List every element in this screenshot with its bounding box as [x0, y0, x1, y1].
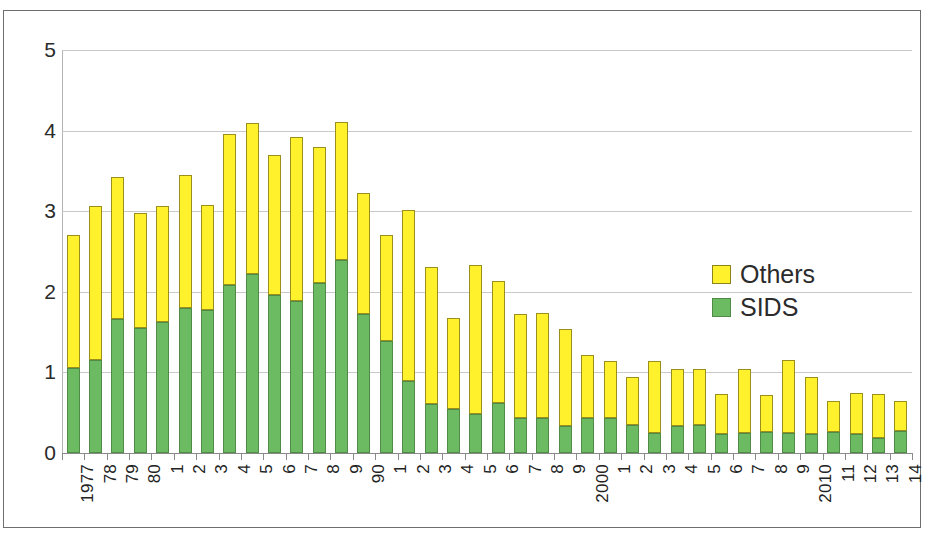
bar-4[interactable]	[671, 50, 684, 453]
bar-90[interactable]	[357, 50, 370, 453]
bar-segment-sids	[179, 308, 192, 453]
bar-segment-sids	[223, 285, 236, 453]
bar-13[interactable]	[872, 50, 885, 453]
bar-12[interactable]	[850, 50, 863, 453]
bar-segment-others	[380, 235, 393, 341]
x-tick-mark	[554, 453, 555, 460]
bar-segment-sids	[894, 431, 907, 453]
bar-6[interactable]	[268, 50, 281, 453]
x-tick-mark	[532, 453, 533, 460]
bar-segment-others	[134, 213, 147, 328]
bar-segment-others	[872, 394, 885, 438]
legend-item-others[interactable]: Others	[712, 258, 815, 291]
bar-2[interactable]	[626, 50, 639, 453]
bar-segment-others	[805, 377, 818, 434]
y-axis-tick-labels: 012345	[14, 0, 56, 541]
bar-segment-others	[156, 206, 169, 322]
bar-3[interactable]	[648, 50, 661, 453]
bar-5[interactable]	[469, 50, 482, 453]
bar-segment-others	[179, 175, 192, 308]
x-tick-mark	[644, 453, 645, 460]
bar-segment-sids	[626, 425, 639, 453]
x-tick-label-2010: 2010	[817, 464, 834, 503]
bar-segment-sids	[469, 414, 482, 453]
bar-9[interactable]	[559, 50, 572, 453]
x-tick-mark	[755, 453, 756, 460]
bar-segment-sids	[268, 295, 281, 453]
bar-segment-sids	[850, 434, 863, 453]
x-tick-mark	[84, 453, 85, 460]
x-tick-label-12: 12	[862, 464, 879, 483]
x-tick-mark	[286, 453, 287, 460]
bar-segment-others	[671, 369, 684, 426]
x-tick-label-79: 79	[124, 464, 141, 483]
x-tick-mark	[308, 453, 309, 460]
bar-1[interactable]	[156, 50, 169, 453]
bar-3[interactable]	[425, 50, 438, 453]
bar-segment-sids	[559, 426, 572, 453]
legend-item-sids[interactable]: SIDS	[712, 291, 815, 324]
bar-80[interactable]	[134, 50, 147, 453]
bar-7[interactable]	[514, 50, 527, 453]
x-tick-label-78: 78	[102, 464, 119, 483]
bar-4[interactable]	[223, 50, 236, 453]
chart-legend: Others SIDS	[712, 258, 815, 324]
x-tick-label-3: 3	[437, 464, 454, 474]
bar-4[interactable]	[447, 50, 460, 453]
x-tick-label-6: 6	[504, 464, 521, 474]
bar-1977[interactable]	[67, 50, 80, 453]
x-tick-mark	[219, 453, 220, 460]
bar-segment-sids	[536, 418, 549, 453]
x-tick-label-9: 9	[571, 464, 588, 474]
x-tick-mark	[912, 453, 913, 460]
x-tick-mark	[62, 453, 63, 460]
bar-segment-others	[715, 394, 728, 433]
bar-segment-others	[626, 377, 639, 425]
bar-segment-sids	[671, 426, 684, 453]
bar-segment-sids	[447, 409, 460, 453]
bar-2010[interactable]	[805, 50, 818, 453]
bar-14[interactable]	[894, 50, 907, 453]
bar-2[interactable]	[402, 50, 415, 453]
bar-segment-others	[469, 265, 482, 413]
x-tick-label-1: 1	[392, 464, 409, 474]
bar-2000[interactable]	[581, 50, 594, 453]
x-tick-label-4: 4	[236, 464, 253, 474]
bar-2[interactable]	[179, 50, 192, 453]
bar-11[interactable]	[827, 50, 840, 453]
x-tick-mark	[800, 453, 801, 460]
bar-1[interactable]	[604, 50, 617, 453]
bar-5[interactable]	[693, 50, 706, 453]
bar-8[interactable]	[536, 50, 549, 453]
bar-segment-sids	[290, 301, 303, 453]
bar-7[interactable]	[290, 50, 303, 453]
x-tick-label-13: 13	[884, 464, 901, 483]
legend-swatch-sids-icon	[712, 298, 731, 317]
bar-79[interactable]	[111, 50, 124, 453]
bar-78[interactable]	[89, 50, 102, 453]
bar-segment-others	[604, 361, 617, 417]
bar-9[interactable]	[782, 50, 795, 453]
legend-label-sids: SIDS	[740, 295, 798, 320]
x-tick-label-2: 2	[191, 464, 208, 474]
bar-1[interactable]	[380, 50, 393, 453]
bar-segment-others	[268, 155, 281, 295]
bar-segment-others	[559, 329, 572, 426]
bar-segment-others	[492, 281, 505, 403]
bar-6[interactable]	[492, 50, 505, 453]
x-tick-mark	[711, 453, 712, 460]
bar-5[interactable]	[246, 50, 259, 453]
bar-8[interactable]	[313, 50, 326, 453]
bar-3[interactable]	[201, 50, 214, 453]
bar-segment-sids	[805, 434, 818, 453]
bar-8[interactable]	[760, 50, 773, 453]
x-tick-label-6: 6	[281, 464, 298, 474]
bar-7[interactable]	[738, 50, 751, 453]
x-tick-mark	[666, 453, 667, 460]
bar-6[interactable]	[715, 50, 728, 453]
x-tick-label-5: 5	[706, 464, 723, 474]
bar-9[interactable]	[335, 50, 348, 453]
bar-segment-others	[827, 401, 840, 432]
bar-segment-others	[447, 318, 460, 408]
x-tick-mark	[509, 453, 510, 460]
